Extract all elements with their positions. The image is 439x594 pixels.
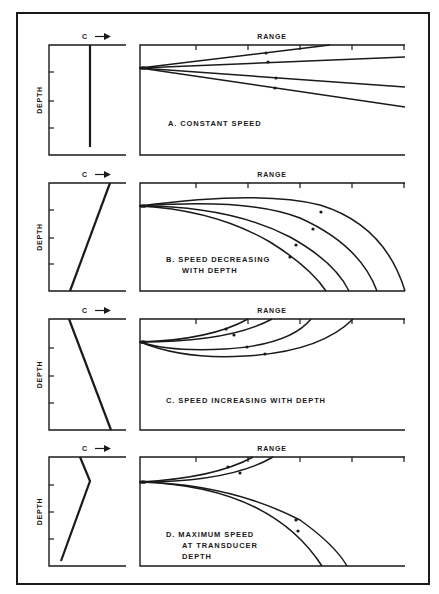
sound-ray [140,206,326,291]
ray-direction-arrow-icon [226,465,229,468]
transducer-source-icon [139,66,147,70]
depth-axis-label: DEPTH [36,86,43,114]
range-axes [140,45,405,155]
panel-caption: DEPTH [182,552,212,561]
ray-direction-arrow-icon [288,255,291,258]
panel-caption: D. MAXIMUM SPEED [166,530,254,539]
panel-caption: B. SPEED DECREASING [166,255,270,264]
ray-path-plot: RANGEB. SPEED DECREASINGWITH DEPTH [139,171,405,291]
ray-direction-arrow-icon [266,60,269,63]
transducer-source-icon [139,204,147,208]
range-axis-label: RANGE [257,445,286,452]
panel-caption: AT TRANSDUCER [182,541,258,550]
sound-speed-profile-line [69,319,111,430]
ray-direction-arrow-icon [264,51,267,54]
sound-speed-profile-line [70,183,110,291]
range-axes [140,183,405,291]
ray-direction-arrow-icon [238,471,241,474]
ray-direction-arrow-icon [274,76,277,79]
ray-direction-arrow-icon [232,333,235,336]
ray-direction-arrow-icon [296,529,299,532]
ray-path-plot: RANGED. MAXIMUM SPEEDAT TRANSDUCERDEPTH [139,445,405,566]
ray-direction-arrow-icon [311,227,314,230]
sound-ray [140,482,347,566]
sound-propagation-diagram: CDEPTHRANGEA. CONSTANT SPEEDCDEPTHRANGEB… [0,0,439,594]
range-axis-label: RANGE [257,307,286,314]
speed-axis-label: C [82,445,88,452]
speed-profile: CDEPTH [36,33,126,155]
sound-ray [140,68,405,87]
range-axes [140,319,405,430]
ray-direction-arrow-icon [245,345,248,348]
ray-direction-arrow-icon [263,352,266,355]
panel-c: CDEPTHRANGEC. SPEED INCREASING WITH DEPT… [36,307,405,430]
depth-axis-label: DEPTH [36,223,43,251]
panel-d: CDEPTHRANGED. MAXIMUM SPEEDAT TRANSDUCER… [36,445,405,566]
sound-ray [140,68,405,107]
figure-frame [17,13,429,584]
speed-axis-label: C [82,33,88,40]
sound-ray [140,319,248,342]
speed-profile: CDEPTH [36,307,126,430]
speed-axis-label: C [82,307,88,314]
ray-direction-arrow-icon [273,86,276,89]
ray-path-plot: RANGEA. CONSTANT SPEED [139,33,405,155]
panel-b: CDEPTHRANGEB. SPEED DECREASINGWITH DEPTH [36,171,405,291]
range-axis-label: RANGE [257,33,286,40]
profile-axes [49,319,126,430]
sound-ray [140,319,272,342]
sound-ray [140,206,349,291]
speed-profile: CDEPTH [36,445,126,566]
panel-a: CDEPTHRANGEA. CONSTANT SPEED [36,33,405,155]
sound-speed-profile-line [61,457,90,561]
depth-axis-label: DEPTH [36,498,43,526]
transducer-source-icon [139,480,147,484]
panel-caption: WITH DEPTH [182,266,238,275]
transducer-source-icon [139,340,147,344]
profile-axes [49,45,126,155]
panel-caption: C. SPEED INCREASING WITH DEPTH [166,396,326,405]
ray-direction-arrow-icon [224,327,227,330]
ray-direction-arrow-icon [294,243,297,246]
range-axis-label: RANGE [257,171,286,178]
panel-caption: A. CONSTANT SPEED [168,119,262,128]
speed-profile: CDEPTH [36,171,126,291]
sound-ray [140,319,353,357]
profile-axes [49,183,126,291]
ray-direction-arrow-icon [319,210,322,213]
sound-ray [140,457,273,482]
ray-path-plot: RANGEC. SPEED INCREASING WITH DEPTH [139,307,405,430]
speed-axis-label: C [82,171,88,178]
range-axes [140,457,405,566]
depth-axis-label: DEPTH [36,361,43,389]
